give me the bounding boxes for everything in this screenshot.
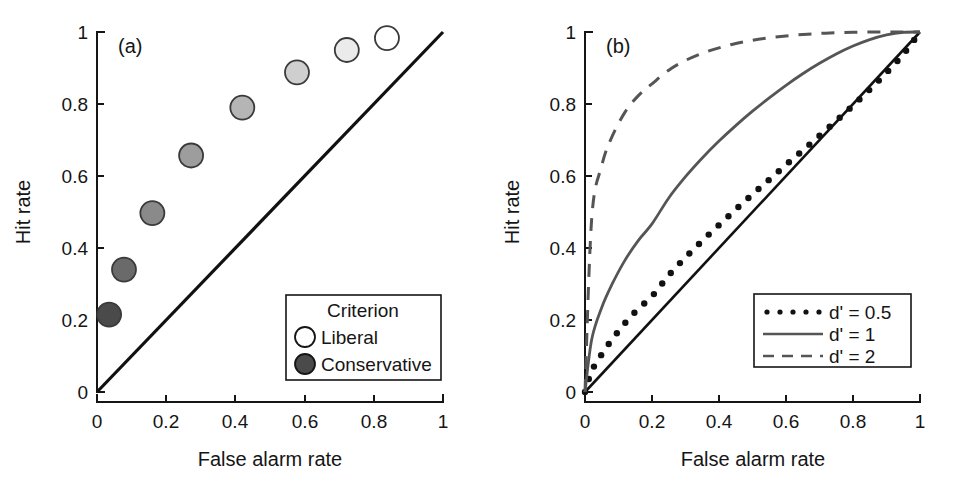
legend-label-liberal: Liberal — [321, 327, 378, 348]
y-axis-title-b: Hit rate — [501, 180, 523, 244]
panel-tag-b: (b) — [606, 35, 630, 57]
roc-point-1 — [112, 258, 136, 282]
roc-point-2 — [140, 201, 164, 225]
x-tick-label-b-4: 0.8 — [840, 411, 866, 432]
legend-label-dprime-2: d' = 2 — [829, 346, 875, 367]
x-tick-label-a-1: 0.2 — [153, 411, 179, 432]
legend-b[interactable]: d' = 0.5 d' = 1 d' = 2 — [754, 294, 911, 367]
x-tick-label-a-2: 0.4 — [222, 411, 249, 432]
y-tick-label-b-3: 0.6 — [550, 166, 576, 187]
x-ticks-b — [652, 395, 853, 402]
x-tick-label-b-5: 1 — [915, 411, 926, 432]
roc-point-7 — [375, 26, 399, 50]
y-tick-label-b-4: 0.8 — [550, 94, 576, 115]
y-tick-label-b-0: 0 — [565, 382, 576, 403]
roc-data-points-a — [97, 26, 399, 326]
panel-b: 1 0.8 0.6 0.4 0.2 0 0 0.2 0.4 0.6 0.8 1 … — [477, 0, 954, 494]
y-tick-label-b-5: 1 — [565, 22, 576, 43]
legend-label-conservative: Conservative — [321, 354, 432, 375]
panel-tag-a: (a) — [118, 35, 142, 57]
y-tick-label-a-3: 0.6 — [62, 166, 88, 187]
panel-a-plot: 1 0.8 0.6 0.4 0.2 0 0 0.2 0.4 0.6 0.8 1 … — [0, 0, 477, 494]
roc-point-6 — [335, 38, 359, 62]
x-tick-label-a-0: 0 — [92, 411, 103, 432]
legend-marker-conservative — [295, 354, 315, 374]
y-tick-label-a-1: 0.2 — [62, 310, 88, 331]
x-tick-label-a-4: 0.8 — [361, 411, 387, 432]
x-tick-label-b-3: 0.6 — [773, 411, 799, 432]
legend-label-dprime-1: d' = 1 — [829, 324, 875, 345]
legend-title-a: Criterion — [327, 300, 399, 321]
roc-point-0 — [97, 303, 121, 327]
y-tick-label-b-1: 0.2 — [550, 310, 576, 331]
x-tick-label-a-3: 0.6 — [292, 411, 318, 432]
y-tick-label-a-2: 0.4 — [62, 238, 89, 259]
y-ticks-a — [97, 104, 104, 320]
roc-point-3 — [179, 143, 203, 167]
panel-b-plot: 1 0.8 0.6 0.4 0.2 0 0 0.2 0.4 0.6 0.8 1 … — [477, 0, 954, 494]
y-tick-label-a-4: 0.8 — [62, 94, 88, 115]
x-tick-label-a-5: 1 — [438, 411, 449, 432]
legend-a[interactable]: Criterion Liberal Conservative — [286, 295, 441, 380]
x-tick-label-b-2: 0.4 — [706, 411, 733, 432]
y-tick-label-a-0: 0 — [77, 382, 88, 403]
x-tick-label-b-0: 0 — [580, 411, 591, 432]
panel-a: 1 0.8 0.6 0.4 0.2 0 0 0.2 0.4 0.6 0.8 1 … — [0, 0, 477, 494]
x-axis-title-b: False alarm rate — [681, 448, 826, 470]
y-axis-title-a: Hit rate — [12, 180, 34, 244]
roc-point-4 — [230, 96, 254, 120]
roc-point-5 — [285, 60, 309, 84]
x-tick-label-b-1: 0.2 — [639, 411, 665, 432]
roc-figure: 1 0.8 0.6 0.4 0.2 0 0 0.2 0.4 0.6 0.8 1 … — [0, 0, 954, 494]
x-ticks-a — [166, 395, 374, 402]
legend-label-dprime-05: d' = 0.5 — [829, 302, 891, 323]
x-axis-title-a: False alarm rate — [198, 448, 343, 470]
y-tick-label-b-2: 0.4 — [550, 238, 577, 259]
legend-marker-liberal — [295, 327, 315, 347]
y-tick-label-a-5: 1 — [77, 22, 88, 43]
